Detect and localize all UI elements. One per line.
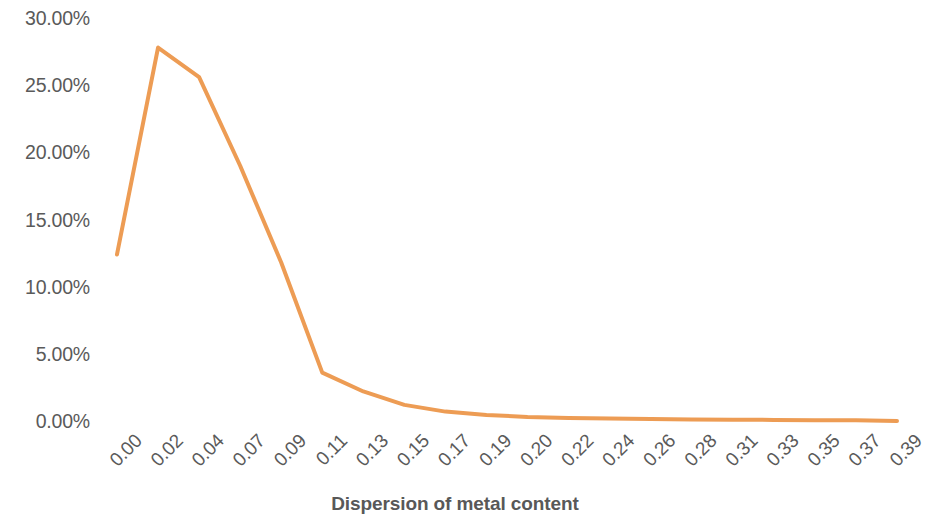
y-axis: 30.00%25.00%20.00%15.00%10.00%5.00%0.00% (0, 0, 100, 524)
y-tick-label: 15.00% (25, 208, 90, 231)
series-line-svg (100, 0, 910, 440)
y-tick-label: 25.00% (25, 74, 90, 97)
plot-area (100, 0, 910, 440)
y-tick-label: 0.00% (36, 410, 90, 433)
y-tick-label: 10.00% (25, 275, 90, 298)
x-axis-title: Dispersion of metal content (0, 493, 910, 515)
series-line-dispersion (117, 48, 897, 421)
y-tick-label: 20.00% (25, 141, 90, 164)
y-tick-label: 5.00% (36, 342, 90, 365)
y-tick-label: 30.00% (25, 7, 90, 30)
